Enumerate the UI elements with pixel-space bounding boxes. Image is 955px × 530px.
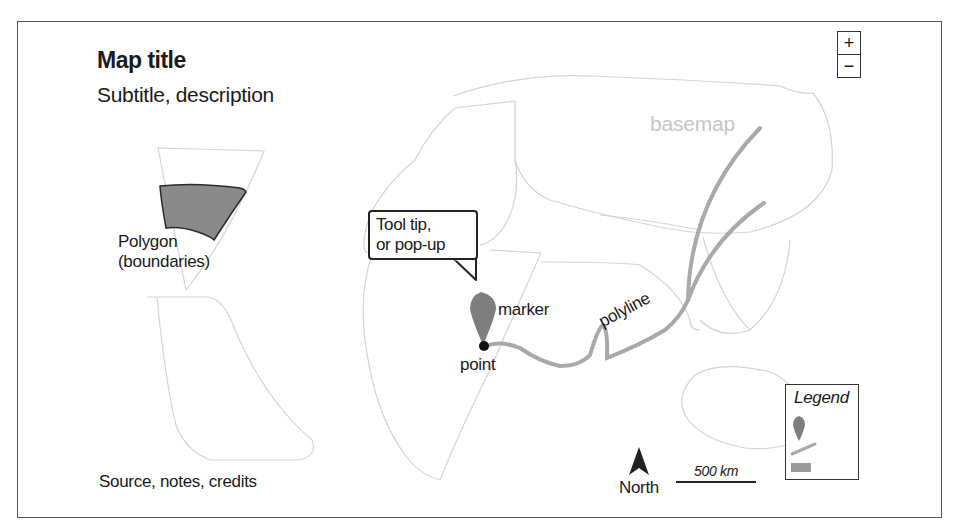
polyline-shape xyxy=(486,128,764,366)
point-label: point xyxy=(460,355,495,375)
legend-marker-icon xyxy=(793,416,805,441)
basemap-label: basemap xyxy=(650,112,735,136)
north-arrow: North xyxy=(614,446,664,498)
map-title: Map title xyxy=(97,47,186,74)
tooltip-popup[interactable]: Tool tip, or pop-up xyxy=(368,210,478,260)
point-dot xyxy=(479,341,489,351)
basemap-boundaries xyxy=(147,76,832,480)
north-arrow-icon xyxy=(627,446,651,476)
polygon-label-line1: Polygon xyxy=(118,232,210,252)
zoom-out-button[interactable]: − xyxy=(838,54,860,77)
scale-bar-line xyxy=(676,481,756,483)
marker-label: marker xyxy=(498,300,549,320)
legend-line-icon xyxy=(792,444,815,454)
scale-label: 500 km xyxy=(676,463,756,479)
polygon-label-line2: (boundaries) xyxy=(118,252,210,272)
map-subtitle: Subtitle, description xyxy=(97,83,274,107)
zoom-in-button[interactable]: + xyxy=(838,32,860,54)
tooltip-line1: Tool tip, xyxy=(376,215,470,235)
credits-text: Source, notes, credits xyxy=(99,472,257,492)
scale-bar: 500 km xyxy=(676,463,756,483)
zoom-controls: + − xyxy=(837,31,861,78)
legend-polygon-swatch-icon xyxy=(791,463,811,472)
legend: Legend xyxy=(785,384,859,480)
polygon-label: Polygon (boundaries) xyxy=(118,232,210,272)
north-label: North xyxy=(614,478,664,498)
tooltip-line2: or pop-up xyxy=(376,235,470,255)
